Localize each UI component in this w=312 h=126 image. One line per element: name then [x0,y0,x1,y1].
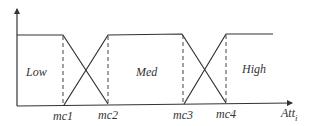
x-axis [17,103,292,106]
tick-label-mc3: mc3 [173,108,193,122]
tick-label-mc4: mc4 [216,107,236,121]
region-label-high: High [241,62,266,76]
region-label-low: Low [25,65,47,79]
x-axis-label-main: Att [280,106,296,120]
x-axis-label-subscript: i [295,113,298,123]
tick-label-mc1: mc1 [53,109,73,123]
x-axis-label: Atti [280,106,298,123]
diagram-svg: Low Med High mc1 mc2 mc3 mc4 Atti [0,0,312,126]
fuzzy-membership-diagram: Low Med High mc1 mc2 mc3 mc4 Atti [0,0,312,126]
region-label-med: Med [135,65,158,79]
tick-label-mc2: mc2 [98,108,118,122]
